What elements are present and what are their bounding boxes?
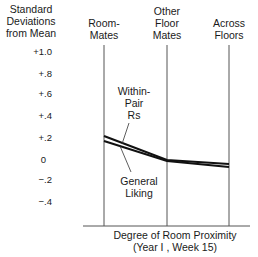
annotation-general-liking: General Liking <box>114 175 164 199</box>
x-axis-title: Degree of Room Proximity (Year I , Week … <box>90 229 258 253</box>
plot-area <box>0 0 258 257</box>
annotation-line: Within- <box>112 85 156 97</box>
annotation-line: General <box>114 175 164 187</box>
within-leader-line <box>122 123 129 144</box>
x-axis-title-line: Degree of Room Proximity <box>90 229 258 241</box>
annotation-line: Liking <box>114 187 164 199</box>
annotation-line: Pair <box>112 97 156 109</box>
annotation-line: Rs <box>112 109 156 121</box>
annotation-within-pair-rs: Within- Pair Rs <box>112 85 156 121</box>
x-axis-title-line: (Year I , Week 15) <box>90 241 258 253</box>
